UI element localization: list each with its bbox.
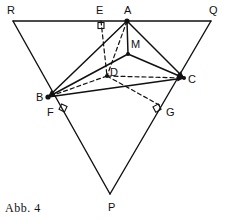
edge-A-B [48,21,127,97]
point-label-F: F [47,106,54,118]
point-label-A: A [124,4,132,16]
solid-edges-group [13,21,211,194]
point-label-G: G [166,106,175,118]
point-label-R: R [7,4,15,16]
point-label-P: P [108,201,115,213]
edge-M-C [128,54,184,78]
vertex-dot-M [126,52,130,56]
figure-canvas: RQPABCMDEFG [0,0,226,219]
edge-D-G [107,76,161,106]
geometry-figure: RQPABCMDEFG [0,0,226,219]
dashed-edges-group [48,21,184,106]
vertex-dot-B [45,94,50,99]
point-label-C: C [188,73,196,85]
point-label-D: D [110,66,118,78]
figure-caption: Abb. 4 [5,201,41,216]
point-label-B: B [36,91,43,103]
edge-R-P [13,21,110,194]
vertex-dot-A [124,18,129,23]
edge-D-B [48,76,107,97]
point-label-Q: Q [209,4,218,16]
vertex-dot-C [182,76,186,80]
point-label-M: M [131,38,140,50]
edge-A-M [127,21,128,54]
point-label-E: E [96,4,103,16]
vertex-dot-D [105,74,109,78]
edge-D-C [107,76,184,78]
